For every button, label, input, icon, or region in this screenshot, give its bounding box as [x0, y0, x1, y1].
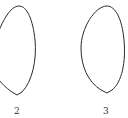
- shape-3-outline: [81, 6, 125, 93]
- shape-2-outline: [0, 6, 35, 95]
- figure-canvas: 2 3: [0, 0, 128, 118]
- shape-3-label: 3: [103, 106, 109, 116]
- shape-2-group: 2: [0, 6, 35, 116]
- shape-2-label: 2: [14, 106, 20, 116]
- shape-3-group: 3: [81, 6, 125, 116]
